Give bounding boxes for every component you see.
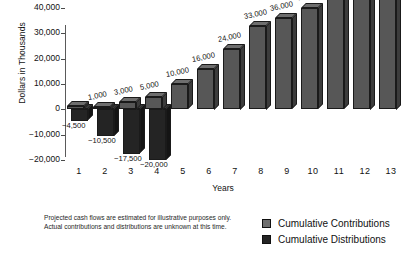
bar-contributions (379, 0, 396, 109)
bar-group: 3,000−17,500 (118, 8, 144, 160)
bar-side-face (318, 3, 323, 109)
bar-side-face (188, 79, 193, 109)
y-tick-label: 0 (16, 104, 60, 113)
legend-item: Cumulative Distributions (262, 234, 410, 245)
y-tick-mark (61, 160, 65, 161)
bar-contributions (119, 102, 136, 110)
y-tick-mark (61, 33, 65, 34)
bar-side-face (344, 0, 349, 109)
x-tick-label: 5 (170, 166, 196, 176)
legend-swatch-icon (262, 235, 271, 244)
y-tick-label: 20,000 (16, 54, 60, 63)
x-axis-title: Years (0, 183, 410, 193)
legend-label: Cumulative Distributions (278, 234, 386, 245)
bar-group: −4,500 (66, 8, 92, 160)
y-tick-mark (61, 84, 65, 85)
bar-group: 33,000 (248, 8, 274, 160)
y-tick-mark (61, 8, 65, 9)
bar-side-face (266, 21, 271, 110)
x-tick-label: 13 (378, 166, 404, 176)
x-axis-tick-labels: 12345678910111213 (66, 166, 404, 180)
y-tick-label: −10,000 (16, 130, 60, 139)
bar-front-face (249, 26, 266, 110)
bar-distributions (97, 109, 114, 136)
y-tick-label: −20,000 (16, 155, 60, 164)
x-tick-label: 12 (352, 166, 378, 176)
x-tick-label: 6 (196, 166, 222, 176)
bar-side-face (292, 13, 297, 109)
bar-side-face (240, 44, 245, 110)
cash-flow-bar-chart: Dollars in Thousands 40,00030,00020,0001… (0, 0, 410, 257)
bar-distributions (149, 109, 166, 160)
bar-contributions (171, 84, 188, 109)
footnote: Projected cash flows are estimated for i… (44, 213, 240, 231)
bar-group: 5,000−20,000 (144, 8, 170, 160)
bar-contributions (67, 106, 84, 109)
bar-distributions (123, 109, 140, 153)
data-label-distributions: −4,500 (62, 122, 85, 130)
x-tick-label: 11 (326, 166, 352, 176)
x-tick-label: 8 (248, 166, 274, 176)
bar-front-face (379, 0, 396, 109)
bar-group: 24,000 (222, 8, 248, 160)
bar-contributions (145, 97, 162, 110)
bar-contributions (93, 107, 110, 110)
data-label-distributions: −17,500 (114, 155, 142, 163)
bar-contributions (197, 69, 214, 110)
y-tick-label: 10,000 (16, 79, 60, 88)
plot-area: −4,5001,000−10,5003,000−17,5005,000−20,0… (66, 8, 404, 160)
y-tick-mark (61, 59, 65, 60)
bar-front-face (223, 49, 240, 110)
legend-item: Cumulative Contributions (262, 218, 410, 229)
y-tick-label: 30,000 (16, 28, 60, 37)
bar-front-face (123, 109, 140, 153)
bar-contributions (275, 18, 292, 109)
legend-label: Cumulative Contributions (278, 218, 390, 229)
bar-front-face (119, 102, 136, 110)
bar-front-face (301, 8, 318, 109)
bar-front-face (353, 0, 370, 109)
bar-front-face (149, 109, 166, 160)
bar-contributions (327, 0, 344, 109)
bar-front-face (145, 97, 162, 110)
y-tick-label: 40,000 (16, 3, 60, 12)
bar-front-face (97, 109, 114, 136)
bar-contributions (249, 26, 266, 110)
bar-group: 40,000 (300, 8, 326, 160)
x-tick-label: 10 (300, 166, 326, 176)
bar-group: 48,000 (352, 8, 378, 160)
bar-front-face (67, 106, 84, 109)
bar-group: 1,000−10,500 (92, 8, 118, 160)
bar-front-face (71, 109, 88, 120)
bar-group: 10,000 (170, 8, 196, 160)
data-label-distributions: −10,500 (88, 137, 116, 145)
bar-group: 36,000 (274, 8, 300, 160)
x-tick-label: 7 (222, 166, 248, 176)
bar-side-face (114, 104, 119, 136)
y-tick-mark (61, 109, 65, 110)
bar-side-face (140, 104, 145, 153)
bar-side-face (370, 0, 375, 109)
bar-side-face (166, 104, 171, 160)
bar-front-face (197, 69, 214, 110)
bar-front-face (275, 18, 292, 109)
bar-contributions (301, 8, 318, 109)
bar-front-face (93, 107, 110, 110)
data-label-distributions: −20,000 (140, 161, 168, 169)
y-tick-mark (61, 135, 65, 136)
bar-group: 50,000 (378, 8, 404, 160)
bar-distributions (71, 109, 88, 120)
bar-group: 45,000 (326, 8, 352, 160)
chart-legend: Cumulative ContributionsCumulative Distr… (262, 218, 410, 250)
x-tick-label: 9 (274, 166, 300, 176)
x-tick-label: 2 (92, 166, 118, 176)
legend-swatch-icon (262, 219, 271, 228)
bar-contributions (223, 49, 240, 110)
x-tick-label: 1 (66, 166, 92, 176)
bar-side-face (214, 64, 219, 110)
bar-contributions (353, 0, 370, 109)
bar-front-face (171, 84, 188, 109)
bar-group: 16,000 (196, 8, 222, 160)
bar-side-face (396, 0, 401, 109)
bar-front-face (327, 0, 344, 109)
